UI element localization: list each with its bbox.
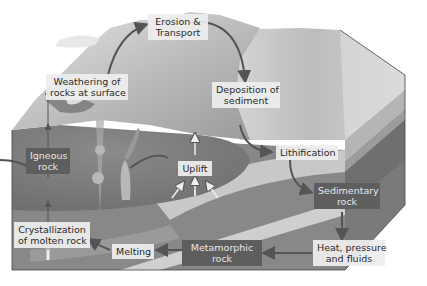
label-lithification: Lithification (276, 145, 338, 160)
label-line: Deposition of (216, 84, 276, 95)
label-line: rock (186, 253, 258, 264)
label-line: Uplift (182, 163, 208, 174)
label-erosion-transport: Erosion & Transport (148, 14, 208, 40)
label-line: Lithification (280, 147, 334, 158)
label-melting: Melting (112, 244, 154, 259)
label-line: Crystallization (18, 224, 86, 235)
label-line: rocks at surface (50, 87, 124, 98)
label-heat-pressure-fluids: Heat, pressure and fluids (313, 240, 385, 266)
label-line: Melting (116, 246, 150, 257)
label-line: rock (30, 161, 66, 172)
label-sedimentary-rock: Sedimentary rock (314, 183, 380, 209)
label-line: Erosion & (152, 16, 204, 27)
label-line: Igneous (30, 150, 66, 161)
label-line: Transport (152, 27, 204, 38)
label-line: rock (318, 196, 376, 207)
label-line: sediment (216, 95, 276, 106)
label-crystallization: Crystallization of molten rock (14, 222, 90, 248)
label-line: Heat, pressure (317, 242, 381, 253)
label-metamorphic-rock: Metamorphic rock (182, 240, 262, 266)
label-line: Metamorphic (186, 242, 258, 253)
label-line: Sedimentary (318, 185, 376, 196)
label-line: and fluids (317, 253, 381, 264)
label-line: of molten rock (18, 235, 86, 246)
label-line: Weathering of (50, 76, 124, 87)
label-igneous-rock: Igneous rock (26, 148, 70, 174)
label-uplift: Uplift (178, 161, 212, 176)
label-deposition: Deposition of sediment (212, 82, 280, 108)
label-weathering: Weathering of rocks at surface (46, 74, 128, 100)
